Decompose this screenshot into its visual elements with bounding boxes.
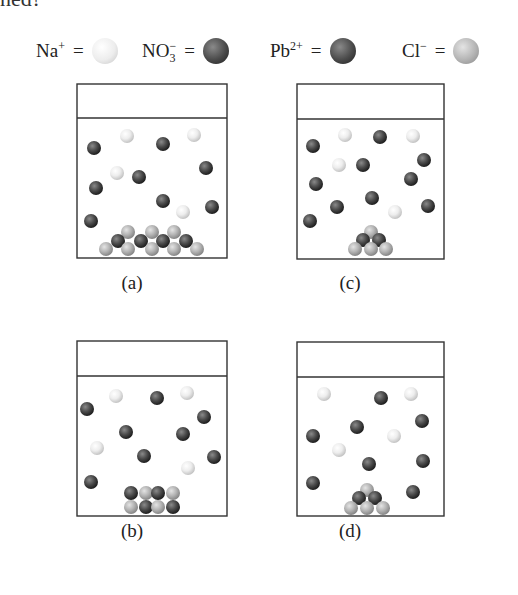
dark-ion-sphere-icon: [197, 410, 211, 424]
dark-ion-sphere-icon: [156, 137, 170, 151]
caption-b: (b): [102, 520, 162, 542]
dark-ion-sphere-icon: [306, 476, 320, 490]
dark-ion-sphere-icon: [303, 214, 317, 228]
sodium-ion-sphere-icon: [110, 166, 124, 180]
dark-ion-sphere-icon: [350, 420, 364, 434]
dark-ion-sphere-icon: [362, 457, 376, 471]
dark-ion-sphere-icon: [356, 158, 370, 172]
chloride-precipitate-sphere-icon: [139, 486, 153, 500]
dark-ion-sphere-icon: [150, 391, 164, 405]
chloride-precipitate-sphere-icon: [151, 500, 165, 514]
sodium-ion-sphere-icon: [187, 128, 201, 142]
beaker-a: [77, 84, 227, 258]
dark-ion-sphere-icon: [309, 177, 323, 191]
dark-ion-sphere-icon: [205, 200, 219, 214]
chloride-precipitate-sphere-icon: [167, 225, 181, 239]
dark-ion-sphere-icon: [207, 450, 221, 464]
dark-ion-sphere-icon: [306, 429, 320, 443]
dark-ion-sphere-icon: [306, 139, 320, 153]
beaker-b: [77, 341, 227, 516]
dark-ion-sphere-icon: [84, 214, 98, 228]
caption-a: (a): [102, 272, 162, 294]
dark-ion-sphere-icon: [374, 391, 388, 405]
lead-precipitate-sphere-icon: [124, 486, 138, 500]
beaker-c: [297, 84, 444, 259]
dark-ion-sphere-icon: [365, 191, 379, 205]
chloride-precipitate-sphere-icon: [167, 242, 181, 256]
dark-ion-sphere-icon: [137, 449, 151, 463]
sodium-ion-sphere-icon: [338, 128, 352, 142]
chloride-precipitate-sphere-icon: [145, 225, 159, 239]
caption-c: (c): [320, 272, 380, 294]
dark-ion-sphere-icon: [373, 130, 387, 144]
dark-ion-sphere-icon: [416, 454, 430, 468]
chloride-precipitate-sphere-icon: [344, 501, 358, 515]
sodium-ion-sphere-icon: [404, 387, 418, 401]
chloride-precipitate-sphere-icon: [360, 501, 374, 515]
chloride-precipitate-sphere-icon: [190, 242, 204, 256]
sodium-ion-sphere-icon: [388, 205, 402, 219]
chloride-precipitate-sphere-icon: [376, 501, 390, 515]
dark-ion-sphere-icon: [84, 475, 98, 489]
sodium-ion-sphere-icon: [180, 386, 194, 400]
lead-precipitate-sphere-icon: [139, 500, 153, 514]
lead-precipitate-sphere-icon: [151, 486, 165, 500]
chloride-precipitate-sphere-icon: [364, 242, 378, 256]
dark-ion-sphere-icon: [80, 402, 94, 416]
dark-ion-sphere-icon: [89, 181, 103, 195]
dark-ion-sphere-icon: [87, 141, 101, 155]
chloride-precipitate-sphere-icon: [379, 242, 393, 256]
dark-ion-sphere-icon: [421, 199, 435, 213]
beaker-d: [297, 342, 444, 516]
sodium-ion-sphere-icon: [332, 443, 346, 457]
lead-precipitate-sphere-icon: [166, 500, 180, 514]
sodium-ion-sphere-icon: [90, 441, 104, 455]
chloride-precipitate-sphere-icon: [124, 500, 138, 514]
dark-ion-sphere-icon: [119, 425, 133, 439]
sodium-ion-sphere-icon: [181, 461, 195, 475]
dark-ion-sphere-icon: [415, 414, 429, 428]
sodium-ion-sphere-icon: [387, 429, 401, 443]
chloride-precipitate-sphere-icon: [99, 242, 113, 256]
sodium-ion-sphere-icon: [406, 129, 420, 143]
dark-ion-sphere-icon: [406, 485, 420, 499]
dark-ion-sphere-icon: [404, 172, 418, 186]
chloride-precipitate-sphere-icon: [348, 242, 362, 256]
sodium-ion-sphere-icon: [332, 158, 346, 172]
chloride-precipitate-sphere-icon: [121, 242, 135, 256]
dark-ion-sphere-icon: [417, 153, 431, 167]
chloride-precipitate-sphere-icon: [145, 242, 159, 256]
caption-d: (d): [320, 520, 380, 542]
beaker-diagrams: [0, 0, 518, 595]
sodium-ion-sphere-icon: [176, 205, 190, 219]
sodium-ion-sphere-icon: [109, 389, 123, 403]
chloride-precipitate-sphere-icon: [166, 486, 180, 500]
dark-ion-sphere-icon: [199, 161, 213, 175]
dark-ion-sphere-icon: [132, 170, 146, 184]
sodium-ion-sphere-icon: [317, 387, 331, 401]
dark-ion-sphere-icon: [330, 200, 344, 214]
dark-ion-sphere-icon: [156, 194, 170, 208]
sodium-ion-sphere-icon: [120, 129, 134, 143]
dark-ion-sphere-icon: [176, 427, 190, 441]
